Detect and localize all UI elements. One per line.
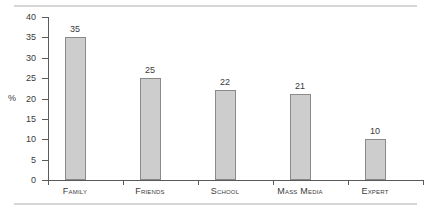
x-tick-divider-1 [123, 180, 124, 185]
y-tick-label-15: 15 [0, 115, 36, 124]
x-tick-divider-0 [48, 180, 49, 185]
bar-value-mass-media: 21 [280, 82, 320, 91]
bar-family[interactable] [65, 37, 86, 180]
bar-value-family: 35 [55, 25, 95, 34]
bar-friends[interactable] [140, 78, 161, 180]
bar-value-friends: 25 [130, 66, 170, 75]
bar-value-school: 22 [205, 78, 245, 87]
y-tick-label-25: 25 [0, 74, 36, 83]
y-tick-20 [42, 99, 48, 100]
y-tick-40 [42, 17, 48, 18]
y-tick-30 [42, 58, 48, 59]
chart-page: % 40 35 30 25 20 15 10 5 0 35 25 [0, 0, 431, 215]
x-label-expert: Expert [330, 186, 420, 196]
y-tick-15 [42, 119, 48, 120]
bar-expert[interactable] [365, 139, 386, 180]
y-axis-line [48, 17, 49, 180]
y-tick-label-30: 30 [0, 54, 36, 63]
y-tick-25 [42, 78, 48, 79]
y-tick-35 [42, 37, 48, 38]
y-tick-label-10: 10 [0, 135, 36, 144]
bar-school[interactable] [215, 90, 236, 180]
y-tick-label-0: 0 [0, 176, 36, 185]
y-tick-5 [42, 160, 48, 161]
x-tick-divider-4 [348, 180, 349, 185]
y-tick-10 [42, 139, 48, 140]
y-tick-label-35: 35 [0, 33, 36, 42]
y-tick-label-5: 5 [0, 156, 36, 165]
x-axis-line [48, 180, 424, 181]
bar-mass-media[interactable] [290, 94, 311, 180]
x-tick-divider-5 [423, 180, 424, 185]
bar-chart: % 40 35 30 25 20 15 10 5 0 35 25 [0, 0, 431, 215]
y-tick-label-40: 40 [0, 13, 36, 22]
bar-value-expert: 10 [355, 127, 395, 136]
y-tick-label-20: 20 [0, 95, 36, 104]
x-tick-divider-2 [198, 180, 199, 185]
x-tick-divider-3 [273, 180, 274, 185]
